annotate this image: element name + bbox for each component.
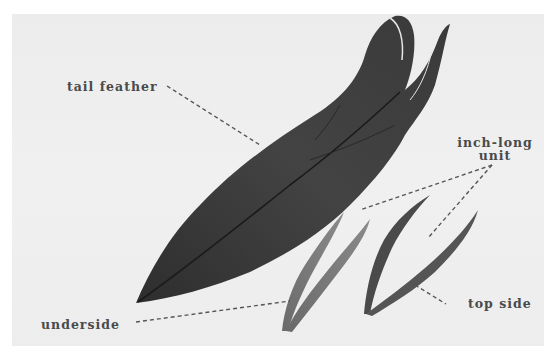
label-underside: underside xyxy=(41,318,120,331)
label-inch-long-unit-line2: unit xyxy=(455,149,535,162)
leader-line-top-side xyxy=(415,285,446,304)
label-inch-long-unit: inch-long unit xyxy=(455,136,535,162)
tail-feather-vane xyxy=(136,16,450,303)
leader-line-inch-long-unit-b xyxy=(428,165,492,238)
leader-line-tail-feather xyxy=(167,86,260,145)
tail-feather xyxy=(136,16,450,303)
label-top-side: top side xyxy=(468,297,532,310)
feather-illustration xyxy=(0,0,547,352)
label-tail-feather: tail feather xyxy=(67,80,158,93)
top-side-unit xyxy=(364,195,478,316)
leader-line-underside xyxy=(136,301,290,322)
